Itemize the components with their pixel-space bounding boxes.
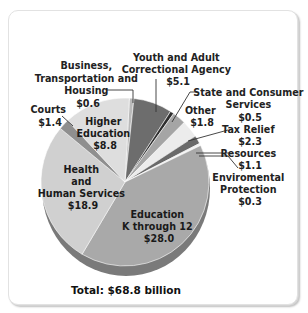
- label-other: Other $1.8: [185, 105, 219, 128]
- pie-slices: [41, 98, 209, 266]
- label-tax-relief: Tax Relief $2.3: [222, 124, 278, 147]
- label-environmental: Enviromental Protection $0.3: [212, 172, 287, 207]
- pie-chart: Business, Transportation and Housing $0.…: [0, 0, 308, 313]
- total-label: Total: $68.8 billion: [71, 284, 181, 296]
- label-resources: Resources $1.1: [220, 148, 279, 171]
